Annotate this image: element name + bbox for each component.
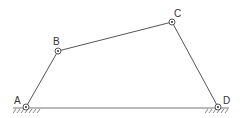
joint-c [169, 19, 175, 25]
link-cd [172, 22, 218, 107]
four-bar-linkage-diagram: A B C D [0, 0, 241, 118]
joint-d [215, 104, 221, 110]
linkage-canvas [0, 0, 241, 118]
label-c: C [174, 9, 181, 19]
link-ab [26, 51, 58, 107]
label-d: D [223, 96, 230, 106]
label-b: B [53, 37, 60, 47]
link-bc [58, 22, 172, 51]
joint-a [23, 104, 29, 110]
joint-b [55, 48, 61, 54]
label-a: A [14, 96, 21, 106]
